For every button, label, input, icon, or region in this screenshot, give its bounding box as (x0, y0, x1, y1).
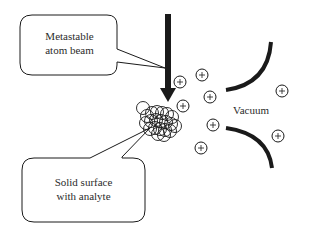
ion-icon (204, 91, 216, 103)
surface-label-line1: Solid surface (22, 175, 145, 189)
upper-electrode-arc (226, 42, 271, 90)
vacuum-label: Vacuum (228, 103, 274, 117)
beam-callout-label: Metastable atom beam (22, 29, 117, 57)
surface-callout-label: Solid surface with analyte (22, 175, 145, 203)
beam-arrow-icon (160, 14, 176, 102)
ion-icon (276, 85, 288, 97)
lower-electrode-arc (226, 128, 272, 168)
beam-label-line2: atom beam (22, 43, 117, 57)
ion-icon (207, 119, 219, 131)
beam-label-line1: Metastable (22, 29, 117, 43)
ion-icon (177, 100, 189, 112)
ion-icon (195, 142, 207, 154)
ion-icon (272, 130, 284, 142)
ion-icon (196, 69, 208, 81)
surface-label-line2: with analyte (22, 189, 145, 203)
ion-icon (174, 76, 186, 88)
